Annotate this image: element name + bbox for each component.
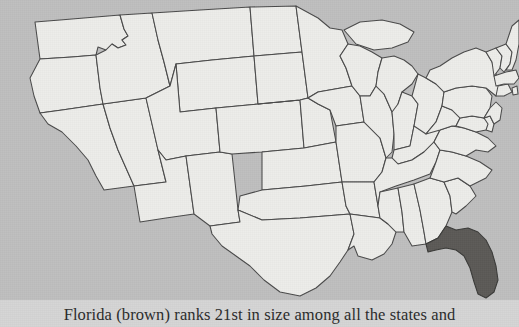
state-CO: [216, 100, 304, 154]
state-RI: [512, 86, 518, 95]
state-WY: [176, 56, 258, 112]
figure-caption: Florida (brown) ranks 21st in size among…: [0, 303, 519, 327]
page-root: .st { fill: #ededea; stroke: #4a4a4a; st…: [0, 0, 519, 327]
state-SD: [254, 52, 308, 104]
state-ND: [250, 6, 302, 56]
state-OR: [30, 55, 103, 113]
united-states-map: .st { fill: #ededea; stroke: #4a4a4a; st…: [0, 0, 519, 300]
